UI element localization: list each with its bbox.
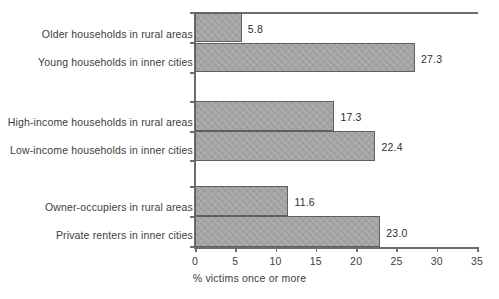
x-tick-2 (276, 247, 278, 252)
category-label-1: Young households in inner cities (38, 57, 193, 68)
bar-value-4: 11.6 (294, 197, 314, 208)
bar-value-5: 23.0 (386, 228, 407, 239)
bar-2[interactable] (195, 101, 334, 131)
x-tick-label-1: 5 (232, 256, 238, 267)
bar-value-0: 5.8 (248, 24, 263, 35)
bar-3[interactable] (195, 131, 375, 161)
x-tick-5 (396, 247, 398, 252)
bar-1[interactable] (195, 43, 415, 72)
bar-0[interactable] (195, 13, 242, 42)
x-tick-7 (477, 247, 479, 252)
category-label-3: Low-income households in inner cities (10, 145, 193, 156)
category-label-0: Older households in rural areas (42, 29, 193, 40)
x-tick-label-0: 0 (192, 256, 198, 267)
x-tick-1 (235, 247, 237, 252)
x-tick-6 (437, 247, 439, 252)
x-tick-label-4: 20 (350, 256, 362, 267)
bar-value-2: 17.3 (340, 112, 361, 123)
category-label-5: Private renters in inner cities (56, 230, 193, 241)
category-label-2: High-income households in rural areas (8, 117, 193, 128)
horizontal-bar-chart: Older households in rural areas Young ho… (0, 0, 499, 299)
x-axis-title: % victims once or more (0, 272, 499, 284)
x-tick-4 (356, 247, 358, 252)
bar-value-3: 22.4 (381, 142, 402, 153)
x-tick-3 (316, 247, 318, 252)
y-axis-tick-2 (190, 72, 196, 74)
bar-5[interactable] (195, 216, 380, 247)
x-tick-label-5: 25 (390, 256, 402, 267)
x-tick-label-7: 35 (471, 256, 483, 267)
x-tick-0 (195, 247, 197, 252)
bar-4[interactable] (195, 186, 288, 216)
x-tick-label-3: 15 (310, 256, 322, 267)
bar-value-1: 27.3 (421, 54, 442, 65)
category-label-4: Owner-occupiers in rural areas (45, 202, 193, 213)
x-tick-label-2: 10 (270, 256, 282, 267)
plot-area: 5.8 27.3 17.3 22.4 11.6 23.0 05101520253… (195, 13, 477, 247)
x-tick-label-6: 30 (431, 256, 443, 267)
